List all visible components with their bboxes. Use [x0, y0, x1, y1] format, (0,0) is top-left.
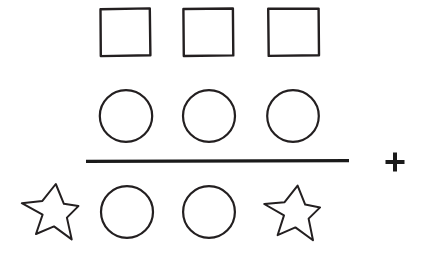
row-bottom [22, 184, 320, 240]
circle-icon-4 [101, 186, 153, 238]
circle-icon-1 [100, 90, 152, 142]
square-icon-2 [183, 9, 233, 57]
plus-sign-icon [386, 153, 405, 172]
circle-icon-5 [183, 186, 235, 238]
square-icon-1 [101, 8, 151, 56]
row-squares [101, 8, 320, 56]
diagram-canvas: Shape arithmetic puzzle Hand-drawn shape… [0, 0, 429, 253]
row-circles [100, 90, 319, 142]
shape-arithmetic-figure [0, 0, 429, 253]
square-icon-3 [268, 9, 319, 56]
plus-vertical-bar [393, 153, 397, 172]
circle-icon-2 [183, 90, 235, 142]
star-icon-left [22, 184, 79, 239]
circle-icon-3 [267, 90, 319, 142]
sum-bar-line [86, 161, 349, 162]
star-icon-right [264, 186, 320, 241]
sum-bar [86, 161, 349, 162]
